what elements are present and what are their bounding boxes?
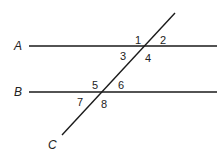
angle-4-label: 4	[145, 52, 151, 64]
angle-6-label: 6	[118, 79, 124, 91]
line-c-transversal	[62, 13, 175, 135]
line-a-label: A	[13, 39, 22, 53]
angle-5-label: 5	[92, 79, 98, 91]
angle-7-label: 7	[77, 96, 83, 108]
angle-1-label: 1	[135, 34, 141, 46]
line-b-label: B	[14, 85, 22, 99]
line-c-label: C	[48, 138, 57, 152]
angle-2-label: 2	[160, 34, 166, 46]
angle-3-label: 3	[120, 50, 126, 62]
diagram-canvas: A B C 1 2 3 4 5 6 7 8	[0, 0, 224, 157]
angle-8-label: 8	[101, 98, 107, 110]
